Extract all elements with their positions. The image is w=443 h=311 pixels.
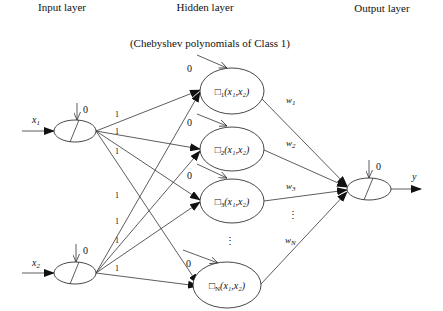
bias-label: 0 <box>187 170 192 181</box>
output-neuron <box>347 178 391 200</box>
input-hidden-connections <box>96 90 200 286</box>
weight-wN: wN <box>285 235 296 247</box>
input-neuron <box>54 120 96 142</box>
bias-arrow <box>197 114 227 126</box>
input-node-x1: x1 0 <box>22 103 96 142</box>
input-label-x1: x1 <box>31 114 40 127</box>
hidden-node-N: 0 □N(x₁,x₂) <box>183 250 261 308</box>
edge-x1-h3 <box>96 131 200 200</box>
edge-x1-hN <box>96 131 198 284</box>
bias-label: 0 <box>376 161 381 172</box>
weight-label: 1 <box>115 191 119 200</box>
edge-h1-out <box>262 99 347 186</box>
weight-label: 1 <box>115 127 119 136</box>
output-node: 0 y <box>347 160 421 200</box>
weight-label: 1 <box>115 217 119 226</box>
weight-label: 1 <box>115 236 119 245</box>
hidden-layer-subtitle: (Chebyshev polynomials of Class 1) <box>130 37 290 50</box>
edge-h2-out <box>264 150 347 187</box>
neural-network-diagram: Input layer Hidden layer Output layer (C… <box>0 0 443 311</box>
hidden-ellipsis: ⋮ <box>225 235 235 246</box>
output-layer-header: Output layer <box>354 2 410 14</box>
edge-x2-h3 <box>96 202 200 273</box>
output-label-y: y <box>411 171 417 182</box>
input-label-x2: x2 <box>31 257 40 270</box>
bias-label: 0 <box>187 117 192 128</box>
weight-w2: w2 <box>286 138 296 150</box>
weight-label: 1 <box>115 147 119 156</box>
edge-x1-h2 <box>96 131 200 149</box>
weight-w3: w3 <box>286 181 296 193</box>
hidden-layer-header: Hidden layer <box>176 1 233 13</box>
weight-label: 1 <box>115 264 119 273</box>
bias-label: 0 <box>186 258 191 269</box>
bias-label: 0 <box>83 104 88 115</box>
edge-x2-h1 <box>96 92 200 273</box>
edge-x2-hN <box>96 273 198 286</box>
hidden-node-1: 0 □1(x₁,x₂) <box>187 55 264 114</box>
hidden-node-3: 0 □3(x₁,x₂) <box>187 164 264 223</box>
input-node-x2: x2 0 <box>22 244 96 284</box>
edge-hN-out <box>261 192 347 284</box>
hidden-output-connections <box>261 99 347 284</box>
edge-x1-h1 <box>96 90 200 131</box>
input-neuron <box>54 262 96 284</box>
bias-label: 0 <box>187 63 192 74</box>
output-weight-labels: w1 w2 w3 ⋮ wN <box>285 95 298 247</box>
input-layer-header: Input layer <box>38 1 86 13</box>
bias-label: 0 <box>83 245 88 256</box>
weights-ellipsis: ⋮ <box>288 209 298 220</box>
bias-arrow <box>197 55 227 68</box>
edge-h3-out <box>264 190 347 201</box>
hidden-node-2: 0 □2(x₁,x₂) <box>187 114 264 171</box>
weight-label: 1 <box>115 110 119 119</box>
edge-x2-h2 <box>96 151 200 273</box>
weight-w1: w1 <box>286 95 296 107</box>
